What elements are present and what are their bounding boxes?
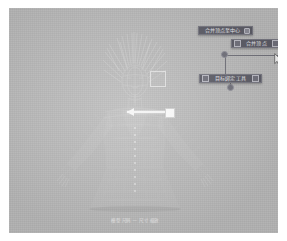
panel-target-bind-tool-label: 目标绑定工具 xyxy=(209,76,252,81)
panel-merge-vertices-to-center[interactable]: 合并顶点至中心 xyxy=(198,26,253,35)
panel-checkbox-left-icon[interactable] xyxy=(202,75,209,82)
garment-skirt xyxy=(91,168,179,207)
mouse-pointer-icon xyxy=(274,52,278,65)
garment-right-sleeve xyxy=(157,111,209,177)
panel-merge-vertices-label: 合并顶点 xyxy=(241,41,272,46)
viewport-3d[interactable]: 合并顶点至中心 合并顶点 目标绑定工具 模型 尺码 — 尺寸 缩放 xyxy=(9,8,278,233)
ground-shadow xyxy=(89,206,181,212)
graph-node-lower[interactable] xyxy=(227,84,234,91)
panel-target-bind-tool[interactable]: 目标绑定工具 xyxy=(199,74,262,83)
graph-node-upper[interactable] xyxy=(221,51,228,58)
screenshot-root: 合并顶点至中心 合并顶点 目标绑定工具 模型 尺码 — 尺寸 缩放 xyxy=(0,0,287,241)
graph-edge-horizontal xyxy=(225,55,278,56)
panel-merge-vertices[interactable]: 合并顶点 xyxy=(231,39,278,48)
head-wireframe xyxy=(122,65,148,106)
selection-square-marker[interactable] xyxy=(150,71,166,87)
move-arrow-gizmo[interactable] xyxy=(127,108,175,117)
panel-checkbox-right-icon[interactable] xyxy=(272,40,278,47)
gizmo-handle[interactable] xyxy=(165,108,175,118)
viewport-caption: 模型 尺码 — 尺寸 缩放 xyxy=(104,217,166,225)
gizmo-shaft xyxy=(127,111,166,113)
panel-checkbox-left-icon[interactable] xyxy=(234,40,241,47)
panel-merge-vertices-to-center-label: 合并顶点至中心 xyxy=(201,28,244,33)
panel-checkbox-right-icon[interactable] xyxy=(252,75,259,82)
panel-option-dot-icon[interactable] xyxy=(244,28,250,34)
